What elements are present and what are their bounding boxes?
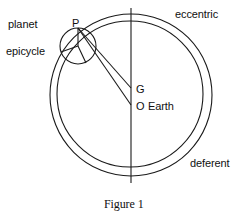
label-equant-point-g: G: [136, 83, 144, 95]
epicycle-chord-lower: [78, 46, 86, 63]
label-earth: Earth: [148, 100, 174, 112]
label-epicycle: epicycle: [6, 45, 45, 57]
line-planet-to-earth: [78, 28, 131, 105]
label-deferent: deferent: [190, 157, 230, 169]
label-earth-point-o: O: [136, 100, 144, 112]
line-planet-to-equant: [78, 28, 131, 88]
label-eccentric: eccentric: [175, 8, 218, 20]
label-planet-point-p: P: [72, 17, 79, 29]
astronomy-diagram: [0, 0, 246, 219]
deferent-circle: [57, 21, 203, 167]
figure-caption: Figure 1: [104, 198, 144, 210]
figure-container: planet P epicycle eccentric deferent G O…: [0, 0, 246, 219]
epicycle-chord-left: [61, 46, 78, 52]
label-planet: planet: [8, 18, 37, 30]
